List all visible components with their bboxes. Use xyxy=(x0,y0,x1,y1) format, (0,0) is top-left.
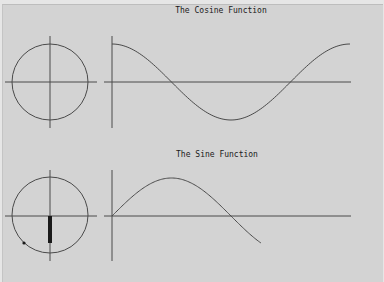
plot-canvas: The Cosine Function The Sine Function xyxy=(0,0,384,282)
sine-value-bar xyxy=(48,216,52,243)
sine-curve xyxy=(112,178,261,243)
cosine-graph xyxy=(104,36,351,128)
sine-graph xyxy=(104,170,351,261)
cosine-unit-circle xyxy=(5,36,97,128)
sine-unit-circle xyxy=(5,170,97,261)
sine-title: The Sine Function xyxy=(176,150,258,159)
cosine-title: The Cosine Function xyxy=(175,6,267,15)
circle-point-marker xyxy=(22,241,25,244)
